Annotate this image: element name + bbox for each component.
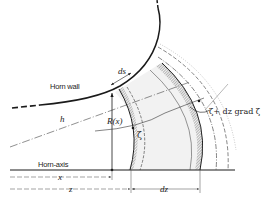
label-x: x bbox=[58, 173, 62, 182]
label-ds: ds bbox=[118, 67, 126, 76]
horn-wall-dashed-left bbox=[12, 105, 40, 108]
label-h: h bbox=[60, 115, 65, 124]
zeta-point bbox=[132, 127, 135, 130]
label-z: z bbox=[69, 185, 73, 194]
label-zeta-plus: ζ+ dz grad ζ bbox=[209, 108, 260, 116]
label-horn-axis: Horn-axis bbox=[38, 161, 68, 169]
zeta-plus-point bbox=[198, 100, 201, 103]
label-dz: dz bbox=[160, 185, 168, 194]
label-horn-wall: Horn wall bbox=[50, 83, 79, 91]
horn-wall-dashed-top bbox=[157, 0, 158, 8]
label-R-x: R(x) bbox=[107, 117, 123, 126]
diagram-canvas bbox=[0, 0, 265, 202]
label-zeta: ζ bbox=[137, 131, 142, 140]
